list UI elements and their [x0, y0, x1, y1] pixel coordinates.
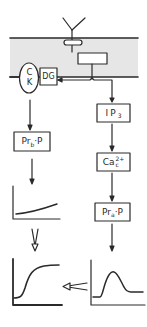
graph-transient-peak [91, 260, 145, 305]
ip3-main: IP [106, 109, 118, 118]
arrow-to-ip3 [110, 98, 114, 102]
pra-p-label: Pra·P [95, 203, 130, 221]
ca-sub: c [115, 162, 124, 168]
ip3-sub: 3 [118, 113, 122, 119]
ck-label: C K [25, 67, 34, 87]
graph-sigmoid [13, 259, 62, 305]
ca-main: Ca [103, 158, 115, 167]
pra-sub: a [111, 212, 115, 218]
branch-line [58, 78, 112, 100]
pra-main: Pr [102, 208, 111, 217]
pra-tail: ·P [115, 208, 123, 217]
prb-tail: ·P [34, 137, 42, 146]
hollow-arrow-left [63, 283, 87, 290]
ca-label: Ca 2+ c [97, 153, 130, 171]
prb-sub: b [30, 142, 34, 148]
ck-label-c: C [25, 67, 34, 77]
prb-main: Pr [21, 137, 30, 146]
prb-p-label: Prb·P [14, 132, 50, 151]
graph-slow-rise [13, 186, 60, 219]
hollow-arrow-down [32, 229, 38, 251]
ip3-label: IP3 [97, 104, 130, 122]
transducer-box [78, 53, 107, 64]
dg-label: DG [40, 68, 57, 85]
arrow-to-dg [58, 78, 62, 82]
ck-label-k: K [25, 77, 34, 87]
